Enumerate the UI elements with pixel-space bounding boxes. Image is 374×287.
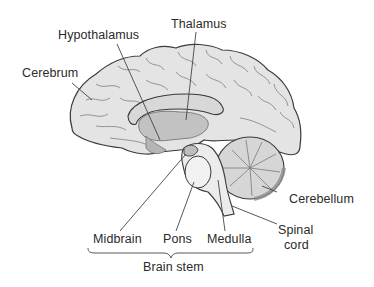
- label-brain-stem: Brain stem: [143, 260, 204, 274]
- brain-stem-brace: [88, 248, 253, 258]
- label-hypothalamus: Hypothalamus: [58, 28, 139, 42]
- label-medulla: Medulla: [207, 232, 251, 246]
- label-cerebellum: Cerebellum: [289, 192, 354, 206]
- label-cord: cord: [284, 238, 309, 252]
- pons-shape: [185, 156, 211, 188]
- label-spinal: Spinal: [278, 223, 313, 237]
- label-thalamus: Thalamus: [171, 17, 227, 31]
- label-cerebrum: Cerebrum: [22, 66, 78, 80]
- label-midbrain: Midbrain: [93, 232, 142, 246]
- brain-diagram: Thalamus Hypothalamus Cerebrum Cerebellu…: [0, 0, 374, 287]
- label-pons: Pons: [163, 232, 192, 246]
